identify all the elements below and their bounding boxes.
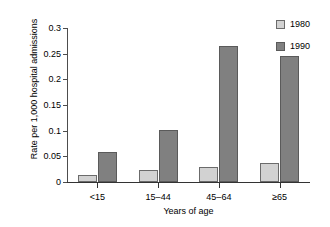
y-tick-mark	[63, 131, 67, 132]
x-axis-title: Years of age	[67, 206, 310, 216]
x-tick-mark	[219, 183, 220, 188]
bar-chart: Rate per 1,000 hospital admissions 00.05…	[0, 0, 330, 227]
y-tick-mark	[63, 79, 67, 80]
y-tick-mark	[63, 28, 67, 29]
x-category-label: <15	[90, 192, 105, 202]
y-tick-mark	[63, 182, 67, 183]
x-axis-line	[67, 182, 310, 183]
bar-1990	[159, 130, 178, 182]
plot-area: 00.050.10.150.20.250.3 <1515–4445–64≥65	[67, 28, 310, 182]
x-tick-mark	[158, 183, 159, 188]
y-tick-mark	[63, 54, 67, 55]
bar-1990	[280, 56, 299, 182]
y-tick-label: 0.1	[48, 127, 61, 136]
y-tick-label: 0.15	[43, 101, 61, 110]
y-tick-label: 0	[56, 178, 61, 187]
legend: 19801990	[276, 18, 310, 62]
bar-1980	[139, 170, 158, 182]
y-tick-label: 0.25	[43, 50, 61, 59]
y-tick-mark	[63, 105, 67, 106]
x-tick-mark	[97, 183, 98, 188]
y-tick-mark	[63, 156, 67, 157]
x-category-label: 45–64	[206, 192, 231, 202]
x-category-label: ≥65	[272, 192, 287, 202]
y-axis-title: Rate per 1,000 hospital admissions	[29, 0, 39, 189]
legend-item-1980: 1980	[276, 18, 310, 30]
bar-1980	[199, 167, 218, 182]
y-tick-label: 0.05	[43, 152, 61, 161]
y-axis-line	[67, 28, 68, 182]
y-tick-label: 0.3	[48, 24, 61, 33]
bar-1990	[98, 152, 117, 182]
y-tick-label: 0.2	[48, 75, 61, 84]
x-tick-mark	[280, 183, 281, 188]
legend-label: 1990	[290, 41, 310, 51]
legend-swatch-icon	[276, 20, 285, 29]
bar-1990	[219, 46, 238, 182]
legend-item-1990: 1990	[276, 40, 310, 52]
bar-1980	[78, 175, 97, 182]
bar-1980	[260, 163, 279, 182]
legend-swatch-icon	[276, 42, 285, 51]
legend-label: 1980	[290, 19, 310, 29]
x-category-label: 15–44	[146, 192, 171, 202]
